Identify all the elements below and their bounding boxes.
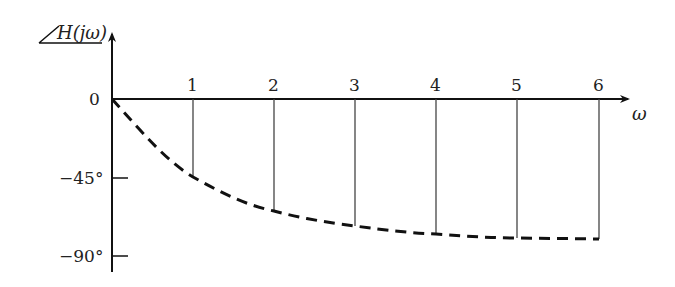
y-axis-label: H(jω) <box>39 22 107 43</box>
y-tick-label-0: 0 <box>89 89 100 109</box>
x-axis-label: ω <box>632 103 647 124</box>
svg-text:H(jω): H(jω) <box>56 22 107 43</box>
phase-plot: H(jω) ω 0 −45° −90° 1 2 3 4 5 6 <box>0 0 675 287</box>
y-tick-label-45: −45° <box>59 168 103 188</box>
y-tick-label-90: −90° <box>59 246 103 266</box>
x-tick-label-1: 1 <box>187 75 198 95</box>
x-tick-label-3: 3 <box>349 75 360 95</box>
x-tick-label-2: 2 <box>268 75 279 95</box>
x-tick-label-6: 6 <box>593 75 604 95</box>
x-tick-label-4: 4 <box>430 75 441 95</box>
stems <box>193 99 599 239</box>
x-tick-label-5: 5 <box>511 75 522 95</box>
